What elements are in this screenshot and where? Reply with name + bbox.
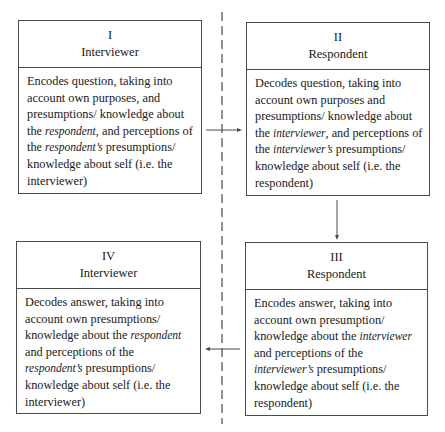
- box-role: Interviewer: [19, 44, 201, 61]
- box-role: Interviewer: [17, 265, 200, 282]
- italic-term: interviewer’s: [273, 143, 333, 155]
- arrow-i-to-ii: [206, 128, 242, 132]
- box-description: Decodes answer, taking into account own …: [17, 289, 200, 410]
- box-header: I Interviewer: [19, 21, 201, 68]
- box-respondent-encodes-answer: III Respondent Encodes answer, taking in…: [245, 242, 428, 416]
- box-respondent-decodes-question: II Respondent Decodes question, taking i…: [246, 22, 430, 196]
- italic-term: interviewer: [273, 127, 325, 139]
- italic-term: interviewer’s: [254, 363, 314, 375]
- italic-term: respondent: [131, 329, 182, 341]
- box-numeral: I: [19, 27, 201, 44]
- italic-term: interviewer: [360, 330, 412, 342]
- italic-term: respondent’s: [25, 362, 83, 374]
- box-description: Encodes question, taking into account ow…: [19, 68, 201, 189]
- box-header: II Respondent: [247, 23, 429, 70]
- box-description: Decodes question, taking into account ow…: [247, 70, 429, 191]
- box-description: Encodes answer, taking into account own …: [246, 290, 427, 411]
- box-numeral: IV: [17, 248, 200, 265]
- box-role: Respondent: [246, 266, 427, 283]
- italic-term: respondent: [45, 125, 96, 137]
- box-interviewer-encodes-question: I Interviewer Encodes question, taking i…: [18, 20, 202, 194]
- box-numeral: II: [247, 29, 429, 46]
- box-interviewer-decodes-answer: IV Interviewer Decodes answer, taking in…: [16, 241, 201, 414]
- box-header: IV Interviewer: [17, 242, 200, 289]
- italic-term: respondent’s: [45, 141, 103, 153]
- box-numeral: III: [246, 249, 427, 266]
- box-header: III Respondent: [246, 243, 427, 290]
- arrow-ii-to-iii: [335, 200, 339, 240]
- text: and perceptions of the: [25, 345, 134, 359]
- box-role: Respondent: [247, 46, 429, 63]
- text: and perceptions of the: [254, 346, 363, 360]
